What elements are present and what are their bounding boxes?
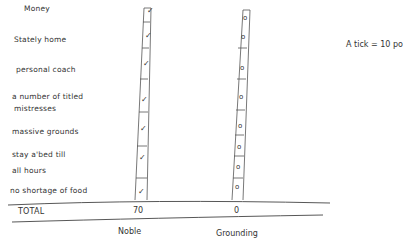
legend-note: A tick = 10 po <box>346 40 403 49</box>
tick-icon: ✓ <box>147 6 154 15</box>
tick-icon: ✓ <box>138 187 145 196</box>
tick-icon: ✓ <box>143 59 150 68</box>
zero-mark-icon: o <box>241 33 245 41</box>
tick-icon: ✓ <box>145 31 152 40</box>
tick-icon: ✓ <box>141 95 148 104</box>
column-label-grounding: Grounding <box>216 229 258 238</box>
row-label-massive-grounds: massive grounds <box>12 127 79 136</box>
row-label-stay-abed: stay a'bed till <box>12 150 66 159</box>
tick-icon: ✓ <box>140 124 147 133</box>
total-noble-value: 70 <box>133 206 143 215</box>
total-grounding-value: 0 <box>234 206 239 215</box>
tick-icon: ✓ <box>139 153 146 162</box>
zero-mark-icon: o <box>236 163 240 171</box>
total-label: TOTAL <box>18 207 44 216</box>
row-label-titled-mistresses-line2: mistresses <box>14 104 56 113</box>
row-label-no-shortage-food: no shortage of food <box>10 186 87 195</box>
zero-mark-icon: o <box>243 14 247 22</box>
bottom-line <box>12 215 323 222</box>
row-label-money: Money <box>24 4 50 13</box>
zero-mark-icon: o <box>239 93 243 101</box>
row-label-stay-abed-line2: all hours <box>12 166 46 175</box>
zero-mark-icon: o <box>235 183 239 191</box>
total-separator-line <box>8 201 330 205</box>
column-label-noble: Noble <box>118 227 141 236</box>
row-label-titled-mistresses: a number of titled <box>12 92 83 101</box>
row-label-stately-home: Stately home <box>14 35 66 44</box>
row-label-personal-coach: personal coach <box>16 65 76 74</box>
zero-mark-icon: o <box>237 143 241 151</box>
zero-mark-icon: o <box>238 122 242 130</box>
zero-mark-icon: o <box>240 64 244 72</box>
